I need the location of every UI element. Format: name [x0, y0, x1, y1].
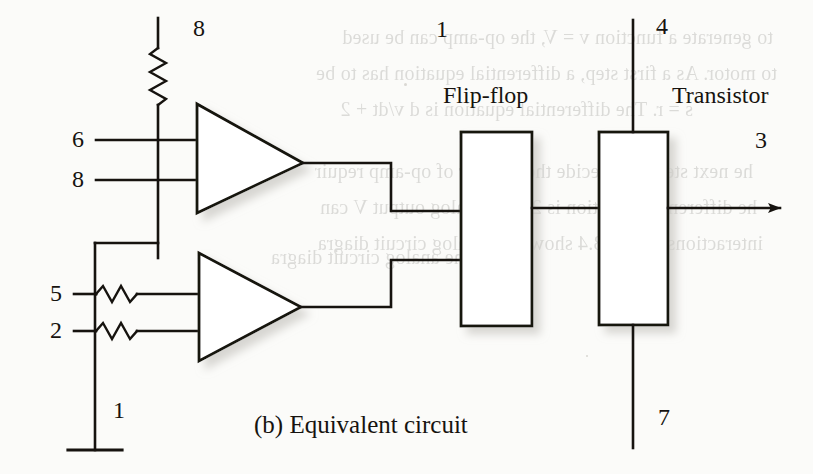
- wire-opamp-lower-out: [301, 260, 461, 307]
- block-transistor: [599, 132, 668, 325]
- pin-label-8-inverting: 8: [72, 167, 84, 191]
- resistor-input-2: [96, 323, 137, 339]
- pin-label-2: 2: [50, 318, 62, 342]
- pin-label-3: 3: [755, 128, 767, 152]
- pin-label-1-flip-flop: 1: [436, 17, 448, 41]
- opamp-upper: [197, 104, 303, 213]
- resistor-supply: [150, 18, 166, 105]
- pin-label-1-ground: 1: [113, 398, 125, 422]
- figure-caption: (b) Equivalent circuit: [254, 412, 468, 437]
- block-label-flip-flop: Flip-flop: [443, 83, 528, 107]
- pin-label-6: 6: [72, 127, 84, 151]
- pin-label-5: 5: [50, 281, 62, 305]
- opamp-lower: [199, 253, 301, 361]
- pin-label-8-top: 8: [193, 16, 205, 40]
- block-label-transistor: Transistor: [672, 83, 768, 107]
- resistor-input-5: [96, 286, 137, 302]
- pin-label-4: 4: [656, 14, 668, 38]
- pin-label-7: 7: [658, 405, 670, 429]
- block-flip-flop: [461, 132, 532, 326]
- wire-opamp-upper-out: [303, 163, 461, 211]
- equivalent-circuit-figure: to generate a function v = V, the op-amp…: [0, 0, 813, 474]
